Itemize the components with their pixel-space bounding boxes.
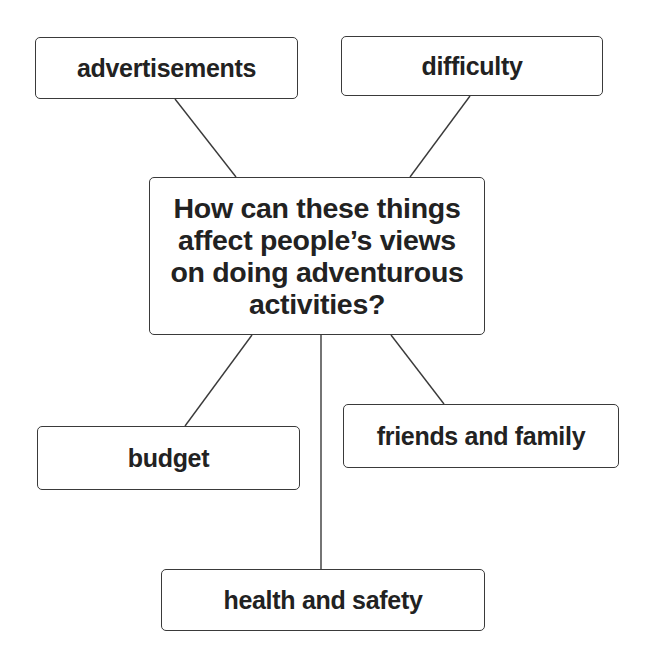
question-line-4: activities? — [249, 288, 385, 320]
node-health-and-safety: health and safety — [161, 569, 485, 631]
connector-advertisements — [175, 99, 236, 177]
central-question: How can these things affect people’s vie… — [149, 177, 485, 335]
node-label: advertisements — [77, 54, 256, 83]
connector-difficulty — [410, 96, 470, 177]
question-line-2: affect people’s views — [178, 224, 456, 256]
node-advertisements: advertisements — [35, 37, 298, 99]
node-label: health and safety — [223, 586, 422, 615]
connector-friends-and-family — [391, 335, 444, 404]
question-line-1: How can these things — [174, 192, 461, 224]
node-budget: budget — [37, 426, 300, 490]
node-label: friends and family — [377, 422, 586, 451]
node-friends-and-family: friends and family — [343, 404, 619, 468]
node-label: difficulty — [421, 52, 522, 81]
question-line-3: on doing adventurous — [170, 256, 463, 288]
node-difficulty: difficulty — [341, 36, 603, 96]
connector-budget — [185, 335, 252, 426]
node-label: budget — [128, 444, 210, 473]
